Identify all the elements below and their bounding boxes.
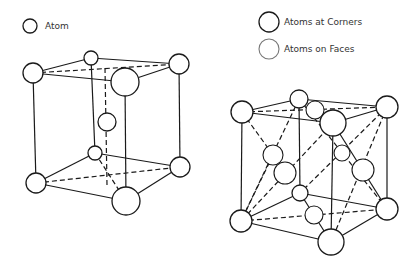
legend-face-atom-icon [259, 39, 279, 59]
fcc-atom-corner-top-right [376, 96, 398, 118]
legend-corner-atom-icon [259, 12, 279, 32]
crystal-structure-diagram: Atom Atoms at Corners Atoms on Faces [0, 0, 418, 275]
fcc-atom-corner-bottom-left [230, 210, 252, 232]
legend-atom-label: Atom [45, 21, 69, 31]
fcc-edge-front [331, 123, 333, 242]
fcc-edge-back [299, 99, 300, 193]
bcc-atom-corner-top-front [111, 68, 139, 96]
fcc-atom-corner-top-back [290, 90, 308, 108]
legend-atom-icon [23, 19, 37, 33]
fcc-atom-corner-bottom-front [318, 229, 344, 255]
bcc-atom-corner-top-back [84, 51, 98, 65]
bcc-cube [23, 51, 190, 215]
legend-corner-label: Atoms at Corners [284, 17, 363, 27]
bcc-atom-corner-bottom-right [170, 157, 190, 177]
bcc-edge-left [33, 73, 36, 183]
bcc-atom-corner-top-left [23, 63, 43, 83]
bcc-edge-right [179, 64, 180, 167]
fcc-atom-face-back [334, 145, 350, 161]
fcc-atom-face-left [263, 145, 283, 165]
bcc-atom-corner-top-right [169, 54, 189, 74]
fcc-atom-corner-bottom-right [376, 198, 398, 220]
fcc-edge-left [241, 112, 242, 221]
legend-left: Atom [23, 19, 69, 33]
fcc-atom-corner-bottom-back [292, 185, 308, 201]
bcc-bottom-edge [95, 153, 180, 167]
fcc-atom-face-right [352, 159, 374, 181]
legend-right: Atoms at Corners Atoms on Faces [259, 12, 363, 59]
fcc-bottom-edge [241, 221, 331, 242]
fcc-atom-corner-top-front [320, 110, 346, 136]
bcc-edge-front [125, 82, 126, 201]
bcc-atom-corner-bottom-front [112, 187, 140, 215]
bcc-atom-corner-bottom-left [26, 173, 46, 193]
bcc-atom-center [98, 113, 116, 131]
fcc-atom-face-front [274, 162, 296, 184]
fcc-cube [230, 90, 398, 255]
bcc-edge-back [91, 58, 95, 153]
fcc-atom-face-bottom [305, 206, 323, 224]
bcc-top-edge [91, 58, 179, 64]
bcc-atom-corner-bottom-back [88, 146, 102, 160]
fcc-atom-corner-top-left [231, 101, 253, 123]
legend-face-label: Atoms on Faces [284, 44, 355, 54]
